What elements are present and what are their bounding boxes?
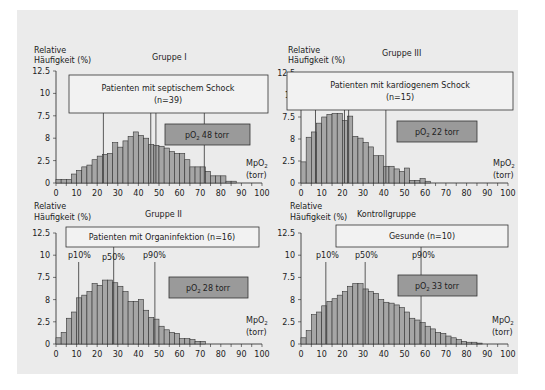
x-tick-label: 0 — [53, 350, 58, 359]
x-axis-label-line2: (torr) — [492, 328, 513, 337]
x-tick-label: 20 — [337, 189, 347, 198]
y-tick-label: 0 — [45, 340, 50, 349]
histogram-bar — [301, 162, 306, 183]
chart-gruppe-1: Relative Häufigkeit (%) Gruppe I 0102030… — [32, 46, 269, 198]
y-tick-label: 0 — [290, 179, 295, 188]
x-tick-label: 40 — [133, 350, 143, 359]
histogram-bar — [174, 153, 179, 183]
x-tick-label: 90 — [482, 189, 492, 198]
histogram-bar — [389, 303, 394, 344]
histogram-bar — [337, 113, 342, 183]
histogram-bar — [420, 179, 425, 183]
po2-label: pO233 torr — [415, 282, 460, 292]
histogram-bar — [200, 341, 205, 344]
x-tick-label: 10 — [317, 189, 327, 198]
histogram-bar — [138, 300, 143, 344]
y-tick-label: 7.5 — [37, 273, 50, 282]
histogram-bar — [138, 136, 143, 183]
histogram-bar — [332, 113, 337, 183]
x-tick-label: 90 — [482, 350, 492, 359]
histogram-bar — [66, 318, 71, 344]
y-tick-label: 2.5 — [37, 318, 50, 327]
histogram-bar — [327, 114, 332, 183]
histogram-bar — [342, 121, 347, 183]
histogram-bar — [61, 332, 66, 344]
histogram-bar — [363, 289, 368, 344]
histogram-bar — [185, 339, 190, 344]
y-axis-label-line2: Häufigkeit (%) — [290, 213, 347, 222]
histogram-bar — [306, 331, 311, 344]
histogram-bar — [133, 132, 138, 183]
x-tick-label: 80 — [462, 350, 472, 359]
chart-gruppe-3: Relative Häufigkeit (%) Gruppe III 01020… — [277, 46, 515, 198]
histogram-bar — [436, 332, 441, 344]
x-tick-label: 30 — [358, 350, 368, 359]
x-tick-label: 10 — [317, 350, 327, 359]
x-tick-label: 60 — [420, 189, 430, 198]
x-axis-label-line2: (torr) — [246, 171, 267, 180]
histogram-bar — [174, 333, 179, 344]
histogram-bar — [317, 312, 322, 344]
y-axis-label-line2: Häufigkeit (%) — [288, 56, 345, 65]
histogram-bar — [456, 340, 461, 344]
y-tick-label: 2.5 — [282, 318, 295, 327]
histogram-bar — [123, 292, 128, 344]
histogram-bar — [231, 181, 236, 183]
x-tick-label: 20 — [92, 189, 102, 198]
y-tick-label: 7.5 — [282, 113, 295, 122]
x-tick-label: 30 — [113, 189, 123, 198]
histogram-bar — [368, 147, 373, 183]
histogram-bar — [467, 342, 472, 344]
histogram-bar — [425, 181, 430, 183]
x-tick-label: 70 — [195, 189, 205, 198]
y-tick-label: 10 — [40, 251, 50, 260]
histogram-bar — [384, 166, 389, 183]
x-axis-label-line1: MpO2 — [246, 159, 268, 169]
histogram-bar — [389, 166, 394, 183]
histogram-figure: Relative Häufigkeit (%) Gruppe I 0102030… — [0, 0, 545, 390]
histogram-bar — [97, 156, 102, 183]
x-tick-label: 0 — [298, 189, 303, 198]
histogram-bar — [342, 292, 347, 344]
histogram-bar — [226, 181, 231, 183]
x-tick-label: 50 — [399, 189, 409, 198]
y-tick-label: 7.5 — [282, 273, 295, 282]
group-label-line2: (n=15) — [386, 93, 414, 102]
x-tick-label: 90 — [236, 350, 246, 359]
y-axis-label-line1: Relative — [34, 46, 66, 55]
y-tick-label: 2.5 — [37, 157, 50, 166]
y-axis-label-line1: Relative — [290, 202, 322, 211]
histogram-bar — [56, 179, 61, 183]
histogram-bar — [205, 171, 210, 183]
x-tick-label: 80 — [216, 189, 226, 198]
y-axis-label-line1: Relative — [34, 202, 66, 211]
histogram-bar — [149, 317, 154, 344]
histogram-bar — [180, 339, 185, 344]
x-axis-label-line1: MpO2 — [492, 316, 514, 326]
po2-label: pO248 torr — [185, 131, 230, 141]
x-tick-label: 80 — [216, 350, 226, 359]
histogram-bar — [87, 292, 92, 344]
histogram-bar — [363, 143, 368, 183]
histogram-bar — [327, 301, 332, 344]
x-tick-label: 10 — [72, 350, 82, 359]
x-tick-label: 70 — [195, 350, 205, 359]
histogram-bar — [451, 338, 456, 344]
histogram-bar — [311, 315, 316, 344]
histogram-bar — [216, 176, 221, 183]
histogram-bar — [144, 138, 149, 183]
y-tick-label: 0 — [290, 340, 295, 349]
histogram-bar — [358, 138, 363, 183]
y-tick-label: 7.5 — [37, 112, 50, 121]
x-tick-label: 30 — [358, 189, 368, 198]
histogram-bar — [92, 284, 97, 344]
percentile-label-p10: p10% — [68, 251, 91, 260]
group-label-line1: Patienten mit septischem Schock — [102, 84, 235, 93]
histogram-bar — [56, 338, 61, 344]
x-tick-label: 50 — [154, 350, 164, 359]
histogram-bar — [461, 341, 466, 344]
histogram-bar — [164, 330, 169, 344]
histogram-bar — [472, 342, 477, 344]
histogram-bar — [180, 153, 185, 183]
histogram-bar — [169, 152, 174, 183]
